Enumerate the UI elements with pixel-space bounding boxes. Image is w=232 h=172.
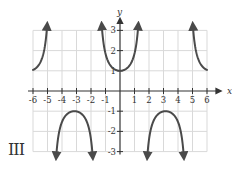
x-axis-label: x (227, 86, 232, 96)
x-tick-label: -6 (29, 95, 37, 105)
x-tick-label: 6 (204, 95, 209, 105)
y-tick-label: -1 (108, 106, 116, 116)
x-tick-label: 1 (132, 95, 137, 105)
y-axis-label: y (116, 7, 123, 17)
x-tick-label: -2 (87, 95, 95, 105)
x-tick-label: -5 (43, 95, 51, 105)
curve-branch-right-upper (193, 26, 207, 70)
x-tick-label: 5 (190, 95, 195, 105)
y-tick-label: 2 (111, 46, 116, 56)
x-tick-label: 4 (175, 95, 180, 105)
panel-label: III (8, 140, 24, 159)
y-tick-label: 3 (111, 25, 116, 35)
x-tick-label: -1 (101, 95, 109, 105)
x-tick-label: -3 (72, 95, 80, 105)
x-tick-label: -4 (58, 95, 66, 105)
x-tick-label: 2 (146, 95, 151, 105)
x-tick-label: 3 (161, 95, 166, 105)
curve-branch-left-upper (33, 26, 47, 70)
sec-function-plot: xy-6-5-4-3-2-1123456-3-2-1123 (0, 0, 232, 172)
y-tick-label: -2 (108, 126, 116, 136)
y-tick-label: -3 (108, 147, 116, 157)
